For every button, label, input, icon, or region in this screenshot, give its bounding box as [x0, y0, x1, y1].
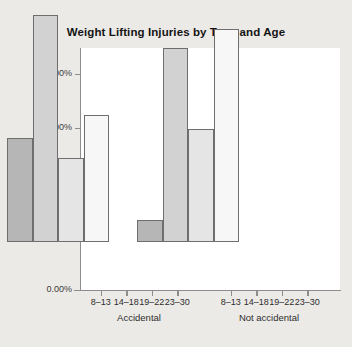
- x-axis-tick-mark: [152, 291, 153, 296]
- bar: [33, 15, 59, 242]
- y-axis-tick-label: 0.00%: [46, 284, 72, 294]
- bar: [7, 138, 33, 242]
- y-axis-tick: 0.00%: [0, 284, 81, 296]
- x-axis-tick-mark: [177, 291, 178, 296]
- x-axis-group-label: Accidental: [69, 312, 209, 323]
- plot-area: [0, 0, 259, 242]
- x-axis-tick-mark: [101, 291, 102, 296]
- x-axis-tick-mark: [282, 291, 283, 296]
- bar: [214, 29, 240, 242]
- chart-figure: Weight Lifting Injuries by Type and Age …: [0, 0, 352, 347]
- bar: [163, 48, 189, 242]
- x-axis-tick-mark: [256, 291, 257, 296]
- x-axis-tick-mark: [307, 291, 308, 296]
- bar: [58, 158, 84, 242]
- x-axis-category-label: 23–30: [284, 297, 330, 307]
- x-axis-tick-mark: [126, 291, 127, 296]
- bar: [137, 220, 163, 242]
- x-axis-group-label: Not accidental: [199, 312, 339, 323]
- bar: [84, 115, 110, 242]
- x-axis-tick-mark: [231, 291, 232, 296]
- x-axis-line: [74, 290, 341, 291]
- bar: [188, 129, 214, 242]
- x-axis-category-label: 23–30: [154, 297, 200, 307]
- y-axis-tick-mark: [75, 290, 81, 291]
